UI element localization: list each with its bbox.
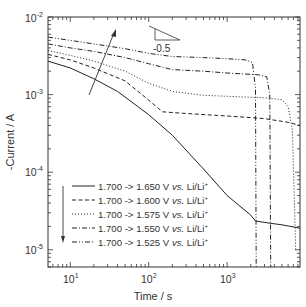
slope-triangle [149,26,180,40]
arrow-down-icon [61,186,65,243]
svg-text:1.700 -> 1.550 V vs. Li/Li+: 1.700 -> 1.550 V vs. Li/Li+ [98,223,208,234]
y-tick-1e-2: 10-2 [25,11,43,24]
x-axis-title: Time / s [134,290,173,302]
arrow-up-icon [89,29,116,95]
x-tick-1000: 103 [220,272,236,285]
svg-text:1.700 -> 1.650 V vs. Li/Li+: 1.700 -> 1.650 V vs. Li/Li+ [98,181,208,192]
svg-text:1.700 -> 1.575 V vs. Li/Li+: 1.700 -> 1.575 V vs. Li/Li+ [98,209,208,220]
series-line [48,54,300,125]
chart: 10-2 10-3 10-4 10-5 101 102 103 Time / s… [0,0,306,307]
legend: 1.700 -> 1.650 V vs. Li/Li+ 1.700 -> 1.6… [72,181,208,248]
legend-item: 1.700 -> 1.650 V vs. Li/Li+ [72,181,208,192]
svg-text:1.700 -> 1.600 V vs. Li/Li+: 1.700 -> 1.600 V vs. Li/Li+ [98,195,208,206]
legend-item: 1.700 -> 1.600 V vs. Li/Li+ [72,195,208,206]
x-tick-labels: 101 102 103 [63,272,236,285]
y-tick-1e-4: 10-4 [25,165,43,178]
legend-item: 1.700 -> 1.525 V vs. Li/Li+ [72,237,208,248]
x-tick-100: 102 [141,272,157,285]
y-tick-1e-5: 10-5 [25,243,43,256]
y-axis-title: -Current / A [4,113,16,170]
legend-item: 1.700 -> 1.550 V vs. Li/Li+ [72,223,208,234]
svg-text:1.700 -> 1.525 V vs. Li/Li+: 1.700 -> 1.525 V vs. Li/Li+ [98,237,208,248]
legend-item: 1.700 -> 1.575 V vs. Li/Li+ [72,209,208,220]
slope-label: -0.5 [153,43,171,54]
y-tick-1e-3: 10-3 [25,88,43,101]
x-tick-10: 101 [63,272,79,285]
y-tick-labels: 10-2 10-3 10-4 10-5 [25,11,43,256]
